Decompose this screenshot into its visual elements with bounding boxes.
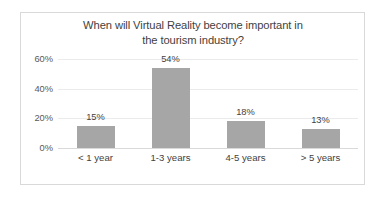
x-axis-labels: < 1 year 1-3 years 4-5 years > 5 years [58, 152, 358, 172]
xtick-label-0: < 1 year [58, 152, 133, 163]
bar-value-1: 54% [161, 54, 180, 64]
bar-value-0: 15% [86, 112, 105, 122]
table-row[interactable] [302, 129, 340, 148]
chart-title: When will Virtual Reality become importa… [33, 18, 353, 48]
bar-value-2: 18% [236, 107, 255, 117]
ytick-label-0: 0% [13, 143, 53, 153]
table-row[interactable] [227, 121, 265, 148]
bar-value-3: 13% [311, 115, 330, 125]
chart-container: When will Virtual Reality become importa… [20, 12, 365, 185]
bar-slot-2: 18% [208, 59, 283, 148]
bar-slot-0: 15% [58, 59, 133, 148]
bar-slot-3: 13% [283, 59, 358, 148]
xtick-label-2: 4-5 years [208, 152, 283, 163]
bar-slot-1: 54% [133, 59, 208, 148]
ytick-label-20: 20% [13, 113, 53, 123]
ytick-label-40: 40% [13, 84, 53, 94]
table-row[interactable] [77, 126, 115, 148]
ytick-label-60: 60% [13, 54, 53, 64]
axis-baseline [58, 148, 358, 149]
xtick-label-3: > 5 years [283, 152, 358, 163]
plot-area: 60% 40% 20% 0% 15% 54% 18% 13% [58, 59, 358, 148]
bars-layer: 15% 54% 18% 13% [58, 59, 358, 148]
xtick-label-1: 1-3 years [133, 152, 208, 163]
table-row[interactable] [152, 68, 190, 148]
